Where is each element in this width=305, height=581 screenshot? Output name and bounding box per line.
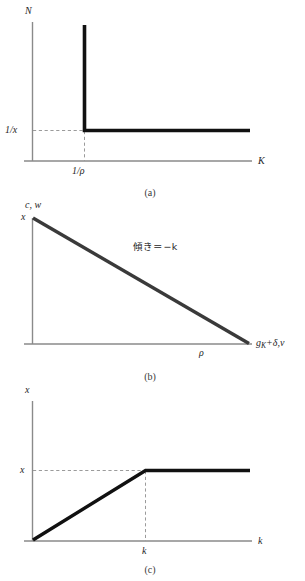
panel-c-x-axis-label: k [258, 536, 262, 546]
panel-c: x x k k (c) [0, 381, 305, 581]
panel-a-x-axis-label: K [258, 156, 265, 166]
slope-annotation-text: 傾き＝−k [133, 241, 177, 252]
isoquant-curve [85, 25, 251, 131]
x-axis-label-rest: +δ,v [266, 337, 284, 348]
panel-c-x-tick-label: k [142, 546, 146, 556]
panel-c-y-axis-label: x [25, 385, 29, 395]
panel-b-x-axis-label: gK+δ,v [256, 338, 284, 349]
panel-c-caption: (c) [120, 565, 180, 575]
panel-b: c, w x 傾き＝−k ρ gK+δ,v (b) [0, 196, 305, 381]
panel-b-slope-annotation: 傾き＝−k [133, 242, 177, 252]
panel-c-plot [0, 381, 305, 581]
panel-a-x-tick-label: 1/ρ [72, 166, 85, 176]
panel-a: N K 1/x 1/ρ (a) [0, 0, 305, 200]
figure-container: N K 1/x 1/ρ (a) c, w x 傾き＝−k ρ gK+δ,v (b… [0, 0, 305, 581]
panel-c-y-tick-label: x [20, 465, 24, 475]
panel-b-y-intercept-label: x [21, 212, 25, 222]
panel-b-y-axis-label: c, w [25, 200, 41, 210]
panel-a-y-axis-label: N [25, 6, 32, 16]
panel-a-plot [0, 0, 305, 200]
frontier-line [33, 218, 249, 344]
production-function-curve [33, 471, 250, 541]
panel-b-x-tick-label: ρ [199, 348, 204, 358]
panel-b-plot [0, 196, 305, 381]
panel-a-y-tick-label: 1/x [5, 125, 17, 135]
